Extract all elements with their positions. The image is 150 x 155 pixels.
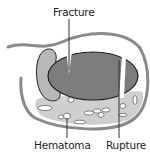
- capsule-top-outline: [8, 34, 140, 48]
- fracture-label: Fracture: [53, 7, 95, 18]
- injury-diagram: [0, 0, 150, 155]
- rupture-label: Rupture: [106, 140, 146, 151]
- hematoma-label: Hematoma: [34, 140, 91, 151]
